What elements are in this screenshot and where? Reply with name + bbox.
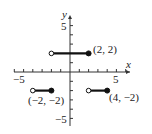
point-label-4-neg2: (4, −2) [109, 91, 139, 104]
axes [14, 18, 130, 126]
x-axis-label: x [125, 58, 131, 70]
y-arrow-icon [68, 15, 72, 19]
graph: x y −5 5 5 −5 (2, 2) (−2, −2) (4, −2) [0, 0, 152, 134]
x-arrow-icon [126, 70, 130, 74]
closed-point [86, 51, 91, 56]
open-point [49, 51, 54, 56]
y-tick-pos5: 5 [61, 20, 67, 32]
closed-point [49, 88, 54, 93]
point-label-neg2-neg2: (−2, −2) [28, 94, 65, 107]
open-point [86, 88, 91, 93]
open-point [31, 88, 36, 93]
y-axis-label: y [61, 8, 67, 20]
x-tick-neg5: −5 [13, 73, 25, 85]
point-label-2-2: (2, 2) [93, 43, 117, 56]
y-tick-neg5: −5 [55, 113, 67, 125]
x-tick-pos5: 5 [113, 73, 119, 85]
